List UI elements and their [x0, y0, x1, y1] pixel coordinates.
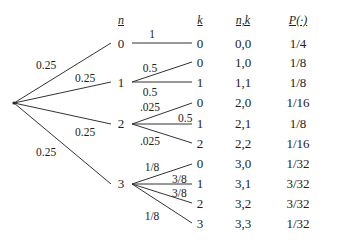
probability-value: 1/16	[286, 137, 309, 150]
edge-n1-k0	[132, 62, 192, 82]
k-value: 0	[197, 157, 204, 170]
prob-root-n0: 0.25	[36, 59, 56, 72]
nk-value: 3,3	[235, 217, 251, 230]
nk-value: 2,2	[235, 137, 251, 150]
k-value: 1	[197, 177, 204, 190]
prob-n1-k1: 0.5	[143, 86, 157, 99]
probability-value: 1/8	[290, 117, 307, 130]
header-n: n	[118, 14, 124, 27]
edge-root-n3	[14, 103, 111, 184]
prob-n2-k1: 0.5	[178, 112, 192, 125]
header-k: k	[197, 14, 202, 27]
nk-value: 3,1	[235, 177, 251, 190]
prob-n0-k0: 1	[149, 28, 155, 41]
nk-value: 1,0	[235, 56, 251, 69]
nk-value: 0,0	[235, 37, 251, 50]
prob-n3-k0: 1/8	[145, 161, 160, 174]
k-value: 0	[197, 56, 204, 69]
k-value: 1	[197, 117, 204, 130]
prob-n3-k3: 1/8	[145, 210, 160, 223]
node-n0: 0	[118, 37, 125, 50]
prob-root-n2: 0.25	[75, 126, 95, 139]
probability-value: 1/8	[290, 76, 307, 89]
nk-value: 3,2	[235, 197, 251, 210]
header-p: P(·)	[289, 14, 307, 27]
edge-root-n2	[14, 103, 111, 124]
node-n2: 2	[118, 117, 125, 130]
root-node	[12, 101, 15, 104]
probability-value: 1/4	[290, 37, 307, 50]
prob-n3-k2: 3/8	[172, 187, 187, 200]
prob-n1-k0: 0.5	[143, 62, 157, 75]
k-value: 3	[197, 217, 204, 230]
probability-value: 1/8	[290, 56, 307, 69]
node-n3: 3	[118, 177, 125, 190]
probability-value: 1/16	[286, 96, 309, 109]
prob-root-n1: 0.25	[75, 72, 95, 85]
k-value: 0	[197, 96, 204, 109]
edge-root-n0	[14, 43, 111, 103]
nk-value: 3,0	[235, 157, 251, 170]
nk-value: 2,0	[235, 96, 251, 109]
prob-root-n3: 0.25	[36, 146, 56, 159]
k-value: 0	[197, 37, 204, 50]
probability-value: 3/32	[286, 177, 309, 190]
header-nk: n,k	[236, 14, 250, 27]
prob-n3-k1: 3/8	[172, 173, 187, 186]
probability-value: 1/32	[286, 157, 309, 170]
edge-root-n1	[14, 82, 111, 103]
k-value: 1	[197, 76, 204, 89]
nk-value: 1,1	[235, 76, 251, 89]
k-value: 2	[197, 197, 204, 210]
prob-n2-k0: .025	[140, 101, 160, 114]
node-n1: 1	[118, 76, 125, 89]
k-value: 2	[197, 137, 204, 150]
nk-value: 2,1	[235, 117, 251, 130]
probability-value: 3/32	[286, 197, 309, 210]
probability-value: 1/32	[286, 217, 309, 230]
prob-n2-k2: .025	[140, 135, 160, 148]
